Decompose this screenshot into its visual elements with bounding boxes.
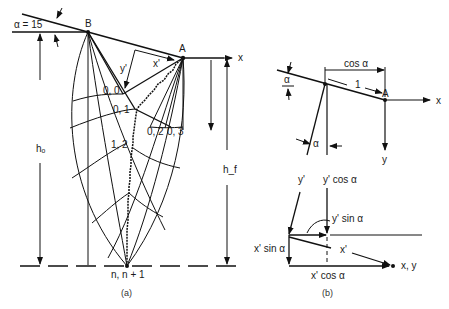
x-axis-label-b: x: [436, 95, 441, 106]
alpha-top-arrow-up: [288, 89, 289, 100]
crack-geometry-diagram: α = 15 B A x y' x' hₒ h_f 0, 0 0, 1 0, 2…: [0, 0, 449, 309]
y-axis-label-b: y: [382, 154, 387, 165]
one-dim-left: [328, 79, 347, 85]
node-label-0-0: 0, 0: [103, 85, 120, 96]
bottom-node-label: n, n + 1: [111, 269, 145, 280]
y-cos-label: y' cos α: [323, 174, 357, 185]
cos-alpha-label: cos α: [344, 58, 368, 69]
point-a-label-b: A: [382, 88, 389, 99]
x-prime-label: x': [153, 58, 160, 69]
caption-a: (a): [121, 288, 132, 298]
one-dim-right: [365, 88, 382, 93]
arc-6: [133, 148, 180, 168]
caption-b: (b): [322, 288, 333, 298]
h-f-label: h_f: [223, 164, 237, 175]
alpha-mid-label: α: [313, 138, 319, 149]
point-a-dot: [181, 56, 185, 60]
slope-line-b: [277, 70, 385, 100]
ray-a-03: [165, 58, 183, 128]
node-label-1-2: 1, 2: [111, 139, 128, 150]
alpha-top-label: α: [284, 74, 290, 85]
alpha-mid-arrow-left: [296, 139, 310, 144]
alpha-arrow-top: [57, 8, 62, 18]
x-sin-label: x' sin α: [254, 243, 285, 254]
x-cos-label: x' cos α: [311, 270, 345, 281]
y-prime-label: y': [120, 63, 127, 74]
y-prime-lower-arrow: [289, 192, 300, 234]
y-prime-label-b: y': [298, 174, 305, 185]
one-label: 1: [355, 79, 361, 90]
slope-surface-line: [22, 14, 183, 58]
h-o-label: hₒ: [36, 143, 46, 154]
alpha-top-arrow-down: [288, 62, 291, 73]
y-sin-label: y' sin α: [332, 213, 363, 224]
figure-a: α = 15 B A x y' x' hₒ h_f 0, 0 0, 1 0, 2…: [12, 8, 243, 298]
alpha-arrow-bottom: [55, 35, 58, 47]
xy-label: x, y: [401, 260, 417, 271]
x-prime-line-1: [289, 237, 331, 248]
x-prime-label-b: x': [340, 244, 347, 255]
node-label-0-1: 0, 1: [113, 104, 130, 115]
node-label-0-3: 0, 3: [167, 126, 184, 137]
point-b-dot: [86, 30, 90, 34]
bottom-node-dot: [125, 264, 129, 268]
point-a-label: A: [179, 43, 186, 54]
figure-b: α cos α 1 A x y α y' y' cos α y' sin α x…: [254, 58, 441, 298]
x-prime-arrow-b: [352, 253, 390, 265]
x-axis-label: x: [238, 52, 243, 63]
xy-point-dot: [391, 264, 395, 268]
alpha-label: α = 15: [14, 19, 43, 30]
point-b-label: B: [85, 18, 92, 29]
node-label-0-2: 0, 2: [147, 126, 164, 137]
arc-4: [92, 193, 129, 223]
